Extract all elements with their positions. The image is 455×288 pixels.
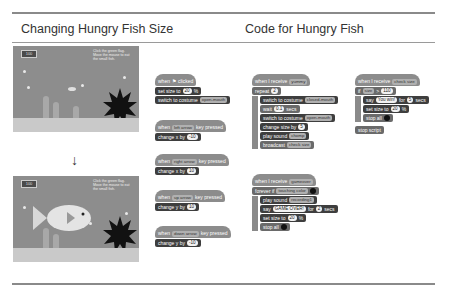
sea-floor [13,118,139,132]
script-green-flag[interactable]: when⚑clicked set size to20% switch to co… [155,74,230,105]
say-input[interactable]: You win! [376,97,397,103]
y-input[interactable]: 10 [187,204,196,210]
bottom-rule [12,283,435,285]
script-down-key[interactable]: whendown arrowkey pressed change y by-10 [155,226,231,248]
size-input[interactable]: 20 [288,215,297,221]
green-flag-icon: ⚑ [172,78,176,85]
stop-icon [281,224,287,230]
wait-input[interactable]: 0.1 [274,106,284,112]
secs-input[interactable]: 2 [316,206,323,212]
stop-icon [384,115,390,121]
bubble [123,76,126,79]
stage-before: 100 Click the green flag. Move the mouse… [13,46,139,132]
down-arrow-icon: ↓ [71,152,78,168]
size-change-input[interactable]: 5 [298,124,305,130]
size-input[interactable]: 20 [183,88,192,94]
threshold-input[interactable]: 110 [381,88,392,94]
secs-input[interactable]: 5 [407,97,414,103]
sound-dropdown[interactable]: chomp [289,133,306,139]
costume-dropdown[interactable]: closed-mouth [305,97,335,103]
key-dropdown[interactable]: right arrow [172,159,197,165]
message-dropdown[interactable]: yummy [289,79,307,85]
sound-dropdown[interactable]: recording1 [289,197,314,203]
script-check-size[interactable]: when I receivecheck size ifsize>110 sayY… [355,74,429,135]
heading-fish-size: Changing Hungry Fish Size [21,22,173,36]
y-input[interactable]: -10 [187,240,198,246]
header-rule [12,42,435,43]
stage-after: 100 Click the green flag. Move the mouse… [13,176,139,262]
sea-floor [13,248,139,262]
score-counter: 100 [21,50,37,58]
bubble [125,212,128,215]
color-swatch[interactable] [310,188,316,194]
stage-instructions: Click the green flag. Move the mouse to … [93,49,131,62]
key-dropdown[interactable]: down arrow [172,231,199,237]
script-receive-yummy[interactable]: when I receiveyummy repeat2 switch to co… [252,74,338,150]
key-dropdown[interactable]: up arrow [172,195,193,201]
score-counter: 100 [21,180,37,188]
stage-instructions: Click the green flag. Move the mouse to … [93,179,131,192]
key-dropdown[interactable]: left arrow [172,125,194,131]
bubble [27,86,30,89]
message-dropdown[interactable]: check size [392,79,417,85]
big-fish-icon [33,202,93,234]
script-left-key[interactable]: whenleft arrowkey pressed change x by-10 [155,120,226,142]
top-rule [12,12,435,14]
message-dropdown[interactable]: gameover [289,179,313,185]
x-input[interactable]: -10 [187,134,198,140]
broadcast-dropdown[interactable]: check size [287,142,312,148]
script-right-key[interactable]: whenright arrowkey pressed change x by10 [155,154,229,176]
bubble [23,206,26,209]
x-input[interactable]: 10 [187,168,196,174]
costume-dropdown[interactable]: open-mouth [305,115,332,121]
costume-dropdown[interactable]: open-mouth [200,97,227,103]
bubble [23,70,26,73]
heading-code: Code for Hungry Fish [245,22,364,36]
small-fish-icon [67,86,77,92]
size-input[interactable]: 20 [391,106,400,112]
say-input[interactable]: GAME OVER! [273,206,306,212]
repeat-input[interactable]: 2 [271,88,278,94]
script-up-key[interactable]: whenup arrowkey pressed change y by10 [155,190,225,212]
bubble [81,84,84,87]
script-receive-gameover[interactable]: when I receivegameover forever iftouchin… [252,174,338,232]
